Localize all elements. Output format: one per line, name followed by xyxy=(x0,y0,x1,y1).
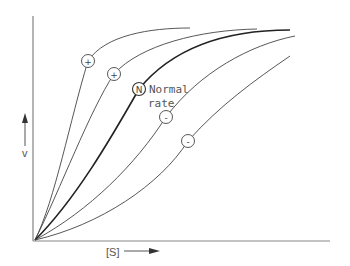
marker-normal: N xyxy=(133,83,146,96)
curve-inhibited-1 xyxy=(35,36,295,240)
y-axis-label: v xyxy=(22,147,28,159)
marker-label: N xyxy=(136,85,143,95)
annotation-normal: Normal xyxy=(149,83,189,96)
curve-normal xyxy=(35,30,290,240)
rate-vs-substrate-diagram: + + N - - Normal rate v [S] xyxy=(0,0,350,266)
x-axis-label: [S] xyxy=(106,246,119,258)
up-arrow-icon xyxy=(22,113,28,146)
right-arrow-icon xyxy=(124,248,160,254)
marker-label: + xyxy=(110,70,118,80)
marker-label: - xyxy=(164,113,167,123)
annotation-rate: rate xyxy=(148,97,175,110)
marker-inhibited-2: - xyxy=(182,135,195,148)
marker-label: - xyxy=(186,137,189,147)
marker-inhibited-1: - xyxy=(160,111,173,124)
marker-activated-1: + xyxy=(82,55,95,68)
marker-activated-2: + xyxy=(108,68,121,81)
marker-label: + xyxy=(84,57,92,67)
